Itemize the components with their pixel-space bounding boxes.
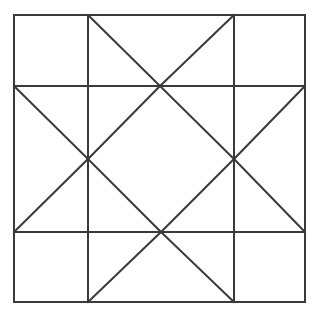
geometric-figure-canvas [0, 0, 320, 317]
figure-background [0, 0, 320, 317]
